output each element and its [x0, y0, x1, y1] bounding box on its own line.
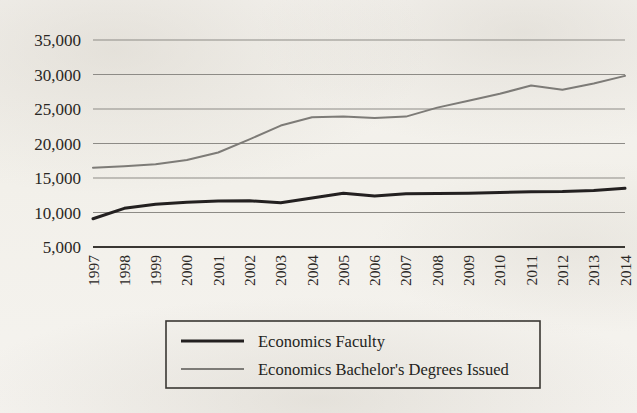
- series-line: [93, 76, 625, 168]
- y-axis-tick-labels: 35,00030,00025,00020,00015,00010,0005,00…: [34, 31, 81, 257]
- x-axis-tick-label: 2006: [366, 255, 383, 286]
- y-axis-tick-label: 35,000: [34, 31, 81, 50]
- x-axis-tick-label: 1999: [147, 255, 164, 286]
- y-axis-tick-label: 15,000: [34, 169, 81, 188]
- x-axis-tick-label: 2000: [178, 255, 195, 286]
- data-series: [93, 76, 625, 219]
- x-axis-tick-labels: 1997199819992000200120022003200420052006…: [85, 255, 634, 286]
- x-axis-tick-label: 2002: [241, 255, 258, 286]
- x-axis-tick-label: 1997: [85, 255, 102, 286]
- chart-figure: 1997199819992000200120022003200420052006…: [0, 0, 637, 413]
- y-axis-tick-label: 10,000: [34, 204, 81, 223]
- y-axis-tick-label: 20,000: [34, 135, 81, 154]
- gridlines: [93, 40, 625, 247]
- x-axis-tick-label: 2001: [210, 255, 227, 286]
- chart-legend: Economics FacultyEconomics Bachelor's De…: [166, 321, 540, 388]
- x-axis-tick-label: 2013: [585, 255, 602, 286]
- y-axis-tick-label: 5,000: [43, 238, 81, 257]
- y-axis-tick-label: 25,000: [34, 100, 81, 119]
- x-axis-tick-label: 2008: [429, 255, 446, 286]
- line-chart: 1997199819992000200120022003200420052006…: [0, 0, 637, 413]
- legend-label: Economics Bachelor's Degrees Issued: [258, 360, 510, 379]
- x-axis-tick-label: 2005: [335, 255, 352, 286]
- y-axis-tick-label: 30,000: [34, 66, 81, 85]
- legend-label: Economics Faculty: [258, 332, 386, 351]
- x-axis-tick-label: 2012: [554, 255, 571, 286]
- x-axis-tick-label: 2004: [304, 255, 321, 286]
- x-axis-tick-label: 2009: [460, 255, 477, 286]
- x-axis-tick-label: 2003: [272, 255, 289, 286]
- x-axis-tick-label: 2014: [617, 255, 634, 286]
- x-axis-tick-label: 1998: [116, 255, 133, 286]
- x-axis-tick-label: 2007: [397, 255, 414, 286]
- x-axis-tick-label: 2010: [491, 255, 508, 286]
- x-axis-tick-label: 2011: [523, 255, 540, 285]
- series-line: [93, 188, 625, 218]
